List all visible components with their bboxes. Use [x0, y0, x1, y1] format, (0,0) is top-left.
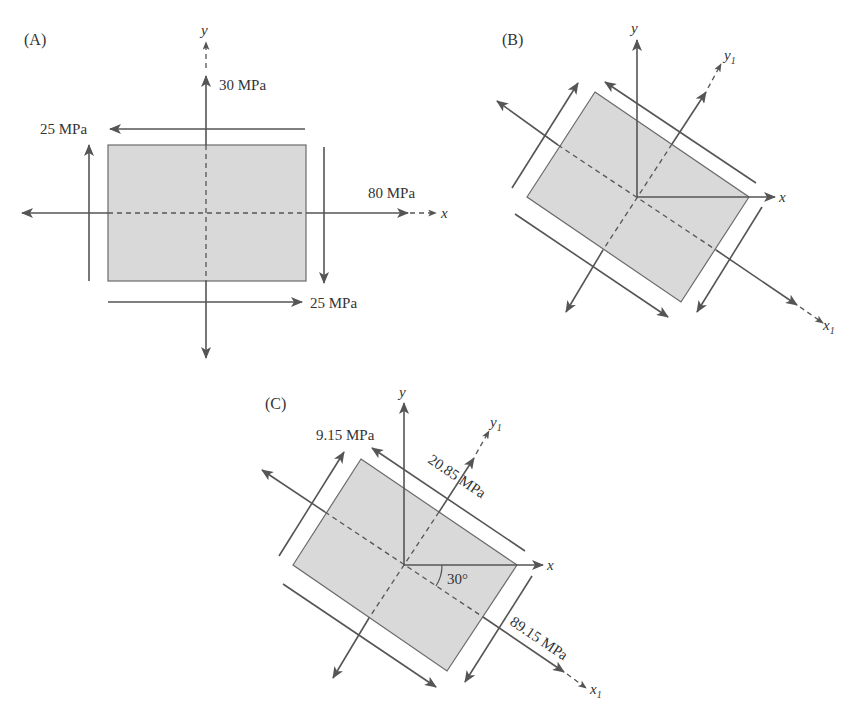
axis-y-label: y	[629, 20, 638, 36]
x1-axis-extension	[567, 674, 586, 688]
axis-y1-label: y1	[488, 414, 502, 433]
normal-y1-up-arrow	[672, 92, 706, 144]
normal-x-stress-label: 80 MPa	[368, 185, 415, 201]
panel-a: (A) x 80 MPa y 30 MPa 25 MPa 25 MPa	[22, 22, 448, 358]
y1-axis-extension	[476, 431, 489, 454]
normal-x1-right-arrow	[716, 250, 797, 305]
axis-x1-label: x1	[822, 317, 835, 336]
shear-bottom-label: 25 MPa	[310, 295, 357, 311]
panel-c-label: (C)	[265, 395, 286, 413]
axis-x-label: x	[440, 205, 448, 221]
shear-stress-label: 9.15 MPa	[316, 427, 375, 443]
normal-y-stress-label: 30 MPa	[219, 77, 266, 93]
normal-y1-stress-label: 20.85 MPa	[425, 451, 489, 501]
shear-top-label: 25 MPa	[40, 121, 87, 137]
angle-label: 30°	[447, 571, 468, 587]
axis-x1-label: x1	[589, 681, 602, 700]
panel-b-label: (B)	[502, 31, 523, 49]
panel-c: (C) x1 89.15 MPa y1 20.85 MPa y x 30° 9.…	[262, 384, 602, 700]
x1-axis-extension	[800, 307, 823, 323]
axis-y-label: y	[199, 22, 208, 38]
normal-y1-down-arrow	[566, 250, 603, 312]
panel-b: (B) x1 y1 y x	[497, 20, 835, 336]
normal-x1-left-arrow	[497, 101, 558, 145]
axis-y-label: y	[397, 384, 406, 400]
axis-x-label: x	[546, 557, 554, 573]
axis-x-label: x	[778, 189, 786, 205]
axis-y1-label: y1	[722, 47, 736, 66]
normal-y1-down-arrow	[333, 618, 369, 678]
normal-x1-left-arrow	[262, 470, 325, 512]
panel-a-label: (A)	[24, 31, 46, 49]
y1-axis-extension	[708, 64, 721, 88]
stress-element-diagram: (A) x 80 MPa y 30 MPa 25 MPa 25 MPa (B)	[0, 0, 852, 713]
